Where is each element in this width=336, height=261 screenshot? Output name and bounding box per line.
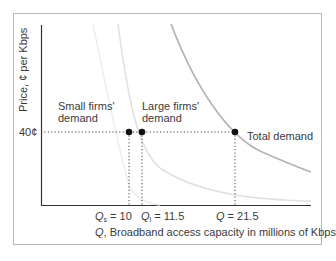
q-annotation: Q = 21.5 [216, 210, 259, 222]
total-demand-curve [171, 24, 311, 172]
total-demand-label: Total demand [247, 130, 313, 142]
large-firms-label-line1: Large firms' [142, 100, 199, 112]
q-var: Q [216, 210, 225, 222]
total-demand-point [232, 129, 239, 136]
large-firms-label-line2: demand [142, 112, 182, 124]
price-tick-label: 40¢ [19, 126, 37, 138]
qs-annotation: Qs = 10 [95, 210, 132, 226]
small-firms-point [126, 129, 133, 136]
small-firms-label-line1: Small firms' [58, 100, 115, 112]
q-eq: = 21.5 [225, 210, 259, 222]
ql-var: Q [141, 210, 150, 222]
x-axis-text: Broadband access capacity in millions of… [110, 226, 336, 238]
x-axis-label: Q, Broadband access capacity in millions… [95, 226, 336, 238]
ql-eq: = 11.5 [151, 210, 184, 222]
ql-annotation: Ql = 11.5 [141, 210, 184, 226]
y-axis-label: Price, ¢ per Kbps [17, 28, 29, 112]
x-axis-var: Q [95, 226, 104, 238]
large-firms-point [139, 129, 146, 136]
qs-eq: = 10 [107, 210, 132, 222]
qs-var: Q [95, 210, 104, 222]
small-firms-label-line2: demand [58, 112, 98, 124]
